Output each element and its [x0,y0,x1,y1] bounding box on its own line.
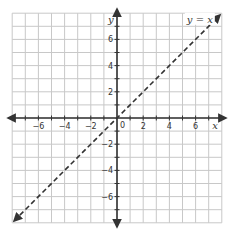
y-axis-label: y [107,14,114,25]
equation-label: y = x [186,14,213,25]
x-axis-label: x [212,120,218,131]
x-tick-label: 4 [167,122,172,131]
x-tick-label: 6 [193,122,198,131]
x-tick-label: 2 [141,122,146,131]
origin-label: 0 [120,121,125,130]
x-tick-label: −4 [59,122,71,131]
x-tick-label: −2 [85,122,97,131]
coordinate-plane: −6−4−2246 642−2−4−6 y = x x y 0 [0,0,230,240]
y-tick-label: 2 [108,88,113,97]
x-tick-labels: −6−4−2246 [33,122,199,131]
y-tick-label: 4 [108,62,113,71]
y-tick-label: −4 [101,166,113,175]
x-tick-label: −6 [33,122,45,131]
y-tick-label: −6 [101,193,113,202]
y-tick-label: 6 [108,35,113,44]
y-tick-label: −2 [101,140,113,149]
